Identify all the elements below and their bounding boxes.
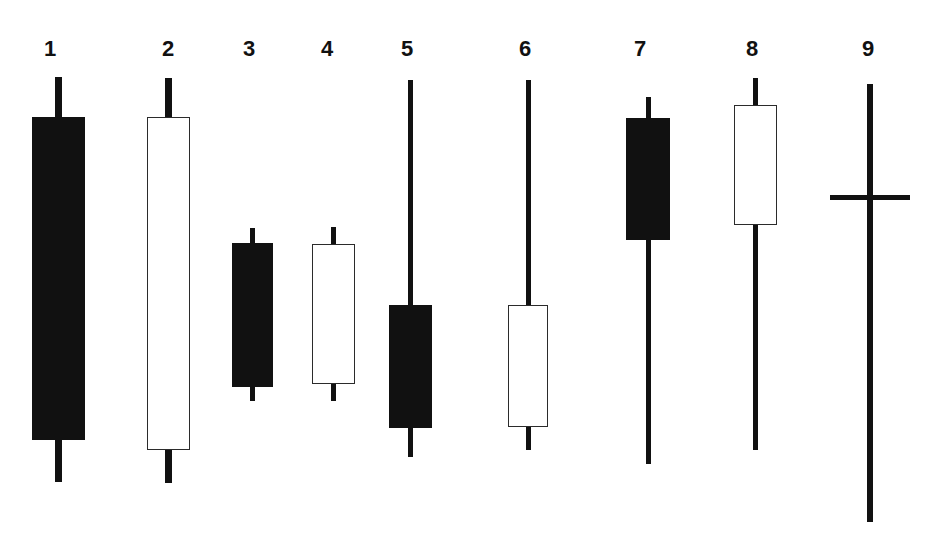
candle-label-9: 9: [848, 38, 888, 60]
candlestick-9: 9: [0, 0, 946, 557]
candle-body-9: [830, 195, 910, 200]
candlestick-chart: 123456789: [0, 0, 946, 557]
candle-shadow-9: [867, 84, 873, 522]
